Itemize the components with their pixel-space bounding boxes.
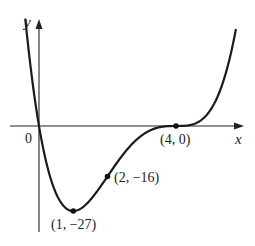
point-inflection — [105, 174, 111, 180]
origin-label: 0 — [25, 131, 32, 146]
x-axis-label: x — [234, 131, 242, 147]
x-axis-arrow-icon — [234, 123, 244, 130]
y-axis-label: y — [22, 14, 31, 30]
y-axis-arrow-icon — [36, 19, 43, 29]
point-inflection-label: (2, −16) — [114, 170, 160, 186]
point-root-label: (4, 0) — [160, 132, 191, 148]
graph: y x 0 (4, 0) (2, −16) (1, −27) — [0, 0, 255, 246]
point-root — [173, 123, 179, 129]
point-min — [71, 208, 77, 214]
point-min-label: (1, −27) — [51, 217, 97, 233]
